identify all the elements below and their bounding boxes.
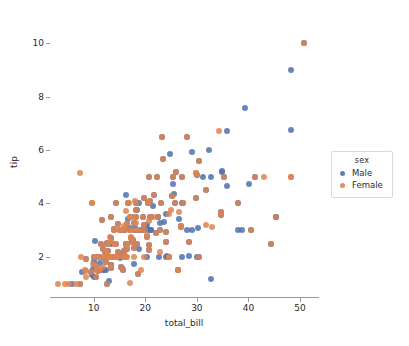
y-tick-label: 4 xyxy=(38,198,44,208)
data-point xyxy=(108,265,114,271)
x-tick-label: 40 xyxy=(243,303,254,313)
data-point xyxy=(131,254,137,260)
data-point xyxy=(120,267,126,273)
data-point xyxy=(246,181,252,187)
data-point xyxy=(195,225,201,231)
data-point xyxy=(196,158,202,164)
data-point xyxy=(248,227,254,233)
data-point xyxy=(186,253,192,259)
data-point xyxy=(99,217,105,223)
data-point xyxy=(158,200,164,206)
data-point xyxy=(208,174,214,180)
data-point xyxy=(108,214,114,220)
legend-item-female[interactable]: Female xyxy=(337,180,387,190)
data-point xyxy=(168,207,174,213)
data-point xyxy=(93,274,99,280)
data-point xyxy=(273,214,279,220)
data-point xyxy=(206,147,212,153)
data-point xyxy=(163,229,169,235)
data-point xyxy=(157,220,163,226)
data-point xyxy=(131,245,137,251)
legend-title: sex xyxy=(337,156,387,165)
data-point xyxy=(301,40,307,46)
x-tick-mark xyxy=(94,298,95,302)
data-point xyxy=(239,227,245,233)
data-point xyxy=(209,224,215,230)
data-point xyxy=(66,281,72,287)
legend-item-male[interactable]: Male xyxy=(337,168,387,178)
data-point xyxy=(157,227,163,233)
data-point xyxy=(184,134,190,140)
plot-area xyxy=(50,27,318,297)
y-tick-mark xyxy=(46,43,50,44)
data-point xyxy=(124,246,130,252)
x-tick-mark xyxy=(145,298,146,302)
data-point xyxy=(172,200,178,206)
data-point xyxy=(146,247,152,253)
data-point xyxy=(151,192,157,198)
x-tick-label: 50 xyxy=(294,303,305,313)
data-point xyxy=(218,209,224,215)
data-point xyxy=(288,127,294,133)
data-point xyxy=(176,216,182,222)
x-tick-mark xyxy=(248,298,249,302)
data-point xyxy=(221,174,227,180)
legend: sex MaleFemale xyxy=(331,151,393,198)
legend-marker-icon xyxy=(340,183,345,188)
data-point xyxy=(133,220,139,226)
data-point xyxy=(170,181,176,187)
data-point xyxy=(208,276,214,282)
data-point xyxy=(131,261,137,267)
data-point xyxy=(146,174,152,180)
data-point xyxy=(167,151,173,157)
data-point xyxy=(261,174,267,180)
data-point xyxy=(122,254,128,260)
data-point xyxy=(141,227,147,233)
data-point xyxy=(224,183,230,189)
data-point xyxy=(115,249,121,255)
data-point xyxy=(179,174,185,180)
data-point xyxy=(242,105,248,111)
data-point xyxy=(216,128,222,134)
data-point xyxy=(196,254,202,260)
data-point xyxy=(123,192,129,198)
data-point xyxy=(170,174,176,180)
data-point xyxy=(147,214,153,220)
data-point xyxy=(154,174,160,180)
y-tick-mark xyxy=(46,203,50,204)
data-point xyxy=(55,281,61,287)
legend-item-label: Male xyxy=(352,168,372,178)
data-point xyxy=(200,174,206,180)
x-tick-label: 20 xyxy=(140,303,151,313)
x-tick-label: 30 xyxy=(191,303,202,313)
data-point xyxy=(77,170,83,176)
legend-entries: MaleFemale xyxy=(337,168,387,190)
data-point xyxy=(224,128,230,134)
data-point xyxy=(166,254,172,260)
data-point xyxy=(252,174,258,180)
y-tick-label: 10 xyxy=(33,38,44,48)
data-point xyxy=(175,267,181,273)
data-point xyxy=(135,271,141,277)
data-point xyxy=(83,274,89,280)
data-point xyxy=(179,254,185,260)
data-point xyxy=(203,187,209,193)
data-point xyxy=(176,209,182,215)
data-point xyxy=(127,280,133,286)
data-point xyxy=(235,200,241,206)
data-point xyxy=(105,241,111,247)
legend-marker-icon xyxy=(340,171,345,176)
data-point xyxy=(268,241,274,247)
data-point xyxy=(83,256,89,262)
y-tick-label: 2 xyxy=(38,252,44,262)
data-point xyxy=(73,281,79,287)
scatter-plot-figure: 246810 1020304050 tip total_bill sex Mal… xyxy=(0,0,409,346)
data-point xyxy=(134,227,140,233)
x-axis-spine xyxy=(50,297,319,298)
data-point xyxy=(160,156,166,162)
data-point xyxy=(180,200,186,206)
y-tick-mark xyxy=(46,97,50,98)
data-point xyxy=(288,67,294,73)
data-point xyxy=(133,214,139,220)
x-tick-mark xyxy=(197,298,198,302)
